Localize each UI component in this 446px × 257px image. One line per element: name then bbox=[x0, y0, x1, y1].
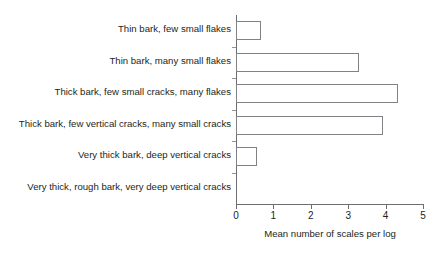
category-label-group: Thin bark, few small flakes Thin bark, m… bbox=[0, 15, 231, 204]
bar-row bbox=[236, 173, 423, 205]
x-axis-tick-label: 1 bbox=[263, 210, 283, 222]
x-axis-tick bbox=[236, 205, 237, 209]
bar-row bbox=[236, 110, 423, 142]
x-axis-title: Mean number of scales per log bbox=[236, 228, 424, 240]
x-axis-tick-label: 2 bbox=[301, 210, 321, 222]
category-label: Very thick, rough bark, very deep vertic… bbox=[0, 181, 231, 192]
category-label: Very thick bark, deep vertical cracks bbox=[0, 149, 231, 160]
x-axis-tick-label: 3 bbox=[338, 210, 358, 222]
category-label: Thick bark, few small cracks, many flake… bbox=[0, 86, 231, 97]
bar-row bbox=[236, 15, 423, 47]
x-axis-tick-label: 5 bbox=[413, 210, 433, 222]
bar-thick-bark-few-vertical-cracks-many-small-cracks bbox=[236, 116, 383, 135]
x-axis-tick-label: 4 bbox=[376, 210, 396, 222]
bar-thin-bark-many-small-flakes bbox=[236, 53, 359, 72]
x-axis-tick bbox=[311, 205, 312, 209]
category-label: Thin bark, few small flakes bbox=[0, 23, 231, 34]
bar-row bbox=[236, 47, 423, 79]
x-axis-tick bbox=[273, 205, 274, 209]
x-axis-tick bbox=[423, 205, 424, 209]
bar-very-thick-bark-deep-vertical-cracks bbox=[236, 147, 257, 166]
bar-thin-bark-few-small-flakes bbox=[236, 21, 261, 40]
bar-chart-figure: Thin bark, few small flakes Thin bark, m… bbox=[0, 0, 446, 257]
category-label: Thin bark, many small flakes bbox=[0, 55, 231, 66]
bar-thick-bark-few-small-cracks-many-flakes bbox=[236, 84, 398, 103]
x-axis-line bbox=[236, 204, 424, 205]
x-axis-tick bbox=[386, 205, 387, 209]
x-axis-tick bbox=[348, 205, 349, 209]
x-axis-tick-label: 0 bbox=[226, 210, 246, 222]
bar-row bbox=[236, 78, 423, 110]
plot-area bbox=[236, 15, 423, 204]
category-label: Thick bark, few vertical cracks, many sm… bbox=[0, 118, 231, 129]
bar-row bbox=[236, 141, 423, 173]
